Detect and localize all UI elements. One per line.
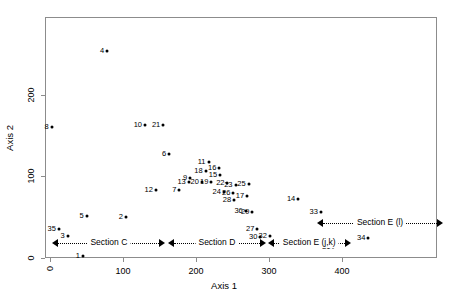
y-tick-label-100: 100	[27, 169, 36, 184]
x-tick-label-200: 200	[189, 267, 204, 276]
y-tick-200	[41, 95, 45, 96]
arrow-right-icon	[260, 239, 266, 247]
y-tick-label-200: 200	[27, 87, 36, 102]
data-point-3	[66, 234, 69, 237]
annotation-section-e-l: Section E (l)	[317, 218, 443, 228]
x-tick-0	[50, 258, 51, 262]
annotation-section-d: Section D	[168, 238, 267, 248]
data-point-10	[144, 123, 147, 126]
data-point-label-14: 14	[287, 195, 295, 203]
data-point-label-34: 34	[357, 234, 365, 242]
data-point-label-10: 10	[134, 121, 142, 129]
annotation-label: Section E (l)	[354, 217, 406, 228]
data-point-label-36: 36	[234, 207, 242, 215]
x-axis-title: Axis 1	[211, 281, 237, 291]
x-tick-400	[342, 258, 343, 262]
data-point-32	[268, 234, 271, 237]
data-point-label-13: 13	[177, 178, 185, 186]
data-point-label-7: 7	[172, 186, 176, 194]
annotation-label: Section C	[87, 237, 130, 248]
y-tick-label-0: 0	[27, 255, 36, 260]
data-point-34	[367, 236, 370, 239]
annotation-label: Section D	[195, 237, 238, 248]
data-point-label-12: 12	[145, 186, 153, 194]
y-tick-100	[41, 176, 45, 177]
data-point-8	[50, 126, 53, 129]
data-point-29	[251, 211, 254, 214]
data-point-5	[85, 214, 88, 217]
data-point-label-8: 8	[44, 123, 48, 131]
x-tick-label-100: 100	[116, 267, 131, 276]
data-point-label-16: 16	[208, 164, 216, 172]
data-point-33	[319, 211, 322, 214]
data-point-label-4: 4	[100, 47, 104, 55]
data-point-35	[57, 228, 60, 231]
x-tick-label-0: 0	[46, 266, 55, 271]
data-point-1	[81, 255, 84, 258]
data-point-7	[178, 189, 181, 192]
arrow-right-icon	[159, 239, 165, 247]
data-point-15	[219, 174, 222, 177]
data-point-17	[246, 194, 249, 197]
data-point-25	[247, 183, 250, 186]
data-point-12	[154, 189, 157, 192]
data-point-label-2: 2	[119, 213, 123, 221]
data-point-label-35: 35	[48, 225, 56, 233]
x-tick-200	[196, 258, 197, 262]
arrow-right-icon	[345, 239, 351, 247]
arrow-right-icon	[437, 219, 443, 227]
data-point-36	[244, 209, 247, 212]
data-point-20	[200, 181, 203, 184]
x-tick-300	[269, 258, 270, 262]
data-point-label-6: 6	[162, 150, 166, 158]
data-point-16	[218, 167, 221, 170]
data-point-label-33: 33	[310, 208, 318, 216]
annotation-section-e-jk: Section E (j,k)	[268, 238, 351, 248]
x-tick-100	[123, 258, 124, 262]
data-point-label-1: 1	[76, 252, 80, 260]
data-point-label-5: 5	[79, 212, 83, 220]
data-point-label-17: 17	[236, 192, 244, 200]
y-tick-0	[41, 258, 45, 259]
data-point-6	[168, 153, 171, 156]
x-tick-label-300: 300	[262, 267, 277, 276]
data-point-2	[125, 216, 128, 219]
scatter-plot-figure: 01002003004000100200 1234567891011121314…	[0, 0, 449, 296]
data-point-14	[297, 198, 300, 201]
data-point-label-18: 18	[194, 167, 202, 175]
data-point-label-28: 28	[223, 196, 231, 204]
data-point-label-21: 21	[152, 121, 160, 129]
data-point-label-25: 25	[237, 180, 245, 188]
data-point-28	[233, 198, 236, 201]
data-point-26	[232, 191, 235, 194]
data-point-21	[162, 123, 165, 126]
x-tick-label-400: 400	[335, 267, 350, 276]
data-point-label-20: 20	[191, 178, 199, 186]
annotation-section-c: Section C	[52, 238, 165, 248]
data-point-label-24: 24	[213, 188, 221, 196]
data-point-4	[106, 50, 109, 53]
data-point-18	[204, 169, 207, 172]
data-point-19	[210, 181, 213, 184]
annotation-label: Section E (j,k)	[280, 237, 339, 248]
y-axis-title: Axis 2	[5, 125, 15, 151]
